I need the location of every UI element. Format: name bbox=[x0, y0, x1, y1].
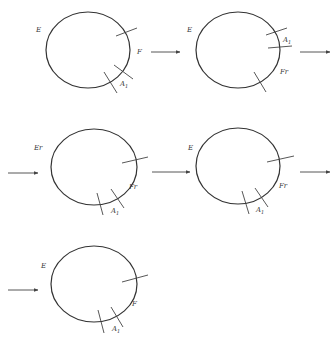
arc-mark bbox=[122, 157, 148, 163]
curve-ellipse bbox=[196, 128, 280, 204]
arc-mark bbox=[255, 188, 268, 207]
label-left: E bbox=[40, 262, 46, 270]
label-cut: A1 bbox=[255, 206, 264, 215]
label-right: Fr bbox=[278, 182, 288, 190]
diagram-canvas: E F A1 E A1 Fr Er Fr A1 E Fr A1 bbox=[0, 0, 333, 340]
diagram-2: E A1 Fr bbox=[186, 12, 292, 92]
label-right: F bbox=[136, 48, 143, 56]
label-left: E bbox=[186, 26, 192, 34]
label-left: Er bbox=[33, 144, 43, 152]
curve-ellipse bbox=[196, 12, 280, 88]
arc-mark bbox=[111, 189, 124, 208]
label-right: Fr bbox=[128, 183, 138, 191]
curve-ellipse bbox=[46, 12, 130, 88]
arc-mark bbox=[267, 156, 294, 162]
curve-ellipse bbox=[51, 129, 137, 205]
arc-mark bbox=[104, 72, 117, 93]
arc-mark bbox=[111, 307, 123, 327]
label-cut: A1 bbox=[110, 207, 119, 216]
curve-ellipse bbox=[51, 246, 137, 322]
label-cut: A1 bbox=[111, 325, 120, 334]
diagram-5: E F A1 bbox=[40, 246, 148, 334]
diagram-1: E F A1 bbox=[35, 12, 143, 93]
label-left: E bbox=[35, 26, 41, 34]
diagram-4: E Fr A1 bbox=[187, 128, 294, 215]
label-right: F bbox=[131, 300, 138, 308]
label-left: E bbox=[187, 144, 193, 152]
arc-mark bbox=[254, 72, 266, 92]
diagram-3: Er Fr A1 bbox=[33, 129, 148, 216]
label-cut: A1 bbox=[282, 36, 291, 45]
arc-mark bbox=[122, 275, 148, 282]
label-right: Fr bbox=[279, 68, 289, 76]
label-cut: A1 bbox=[119, 80, 128, 89]
